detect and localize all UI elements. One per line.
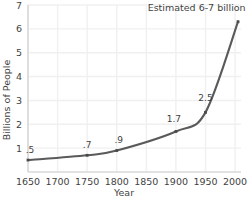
y-axis-tick-label: 2 <box>16 119 22 130</box>
x-axis-title: Year <box>113 187 134 198</box>
y-axis-tick-label: 1 <box>16 143 22 154</box>
data-point-marker <box>27 159 30 162</box>
data-point-marker <box>237 20 240 23</box>
data-point-label: 1.7 <box>167 114 181 124</box>
chart-canvas: 1234567 16501700175018001850190019502000… <box>0 0 249 200</box>
chart-annotations: Estimated 6-7 billion <box>148 2 246 13</box>
x-axis-tick-label: 1800 <box>105 176 129 187</box>
x-axis-tick-label: 1900 <box>164 176 188 187</box>
data-point-label: .7 <box>83 140 92 150</box>
x-axis-tick-label: 1750 <box>75 176 99 187</box>
y-axis-tick-label: 7 <box>16 0 22 11</box>
x-axis-tick-label: 1850 <box>134 176 158 187</box>
y-axis-tick-label: 5 <box>16 47 22 58</box>
estimate-annotation: Estimated 6-7 billion <box>148 2 246 13</box>
data-point-label: .5 <box>26 145 35 155</box>
data-point-marker <box>175 130 178 133</box>
x-axis-tick-label: 1700 <box>45 176 69 187</box>
data-point-marker <box>115 149 118 152</box>
y-axis-tick-label: 3 <box>16 95 22 106</box>
data-point-label: .9 <box>114 135 123 145</box>
x-axis-tick-label: 1650 <box>16 176 40 187</box>
y-axis-tick-label: 6 <box>16 23 22 34</box>
data-point-marker <box>204 111 207 114</box>
data-point-label: 2.5 <box>198 93 212 103</box>
x-axis-tick-label: 2000 <box>223 176 247 187</box>
y-axis-tick-label: 4 <box>16 71 22 82</box>
data-point-marker <box>86 154 89 157</box>
x-axis-tick-label: 1950 <box>193 176 217 187</box>
population-growth-chart: 1234567 16501700175018001850190019502000… <box>0 0 249 200</box>
y-axis-title: Billions of People <box>1 60 12 141</box>
